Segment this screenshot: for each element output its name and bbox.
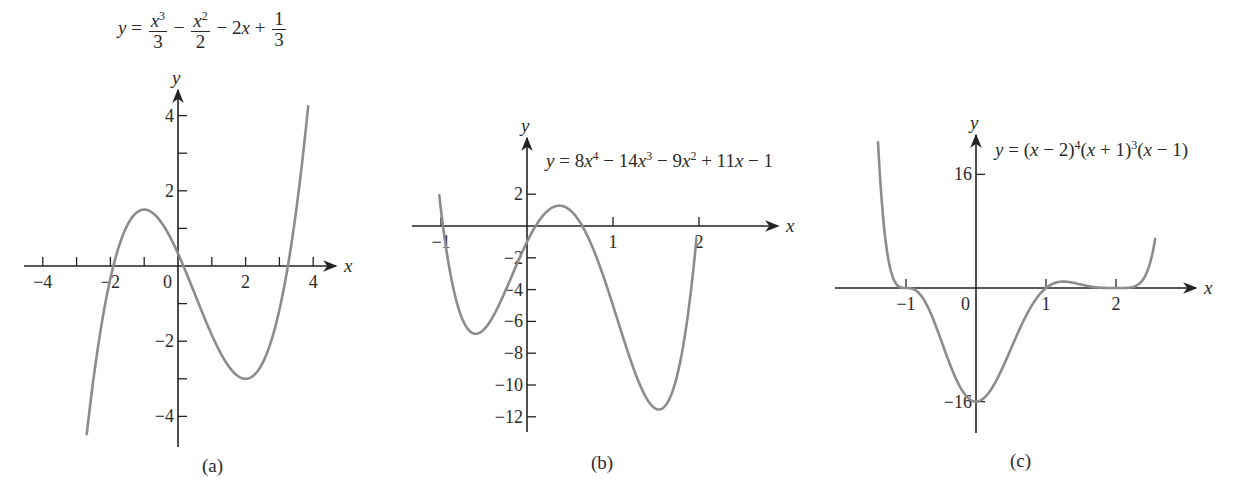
equation-c: y = (x − 2)4(x + 1)3(x − 1) — [995, 138, 1188, 161]
function-curve — [87, 106, 308, 434]
eq-a-equals: = — [131, 17, 142, 38]
eq-b-var: x — [638, 150, 646, 171]
eq-a-var: x — [241, 17, 249, 38]
function-curve — [878, 142, 1155, 401]
x-tick-label: 1 — [609, 232, 618, 252]
y-axis-label: y — [170, 67, 181, 88]
eq-c-var: x — [1087, 139, 1095, 160]
x-axis-label: x — [785, 215, 795, 236]
x-tick-label: 0 — [961, 294, 970, 314]
eq-a-frac3-num: 1 — [272, 9, 286, 30]
eq-a-lhs: y — [118, 17, 126, 38]
y-tick-label: −10 — [495, 375, 523, 395]
y-tick-label: 16 — [954, 164, 972, 184]
y-tick-label: −16 — [944, 392, 972, 412]
x-tick-label: 4 — [309, 272, 318, 292]
eq-c-var: x — [1144, 139, 1152, 160]
equation-a: y = x33 − x22 − 2x + 13 — [118, 6, 288, 52]
function-curve — [439, 195, 696, 409]
eq-c-part: = ( — [1003, 139, 1030, 160]
eq-c-part: − 1) — [1152, 139, 1188, 160]
y-tick-label: −8 — [504, 343, 523, 363]
eq-b-part: = 8 — [554, 150, 584, 171]
eq-c-part: − 2) — [1038, 139, 1074, 160]
eq-b-part: − 14 — [599, 150, 638, 171]
y-tick-label: 2 — [165, 181, 174, 201]
eq-b-part: + 11 — [696, 150, 735, 171]
panel-label-a: (a) — [202, 455, 223, 477]
x-tick-label: −1 — [896, 294, 915, 314]
x-tick-label: 2 — [1112, 294, 1121, 314]
x-tick-label: −1 — [431, 232, 450, 252]
eq-a-frac2-num: x — [193, 10, 201, 31]
eq-a-frac2-den: 2 — [191, 32, 209, 52]
equation-b: y = 8x4 − 14x3 − 9x2 + 11x − 1 — [546, 149, 773, 172]
eq-a-op3: + — [255, 17, 266, 38]
eq-c-part: + 1) — [1095, 139, 1131, 160]
eq-b-part: − 9 — [652, 150, 682, 171]
eq-b-part: − 1 — [743, 150, 773, 171]
y-tick-label: −12 — [495, 407, 523, 427]
figure-canvas: xy−4−202442−2−4 xy−1122−2−4−6−8−10−12 xy… — [0, 0, 1256, 500]
x-tick-label: −4 — [33, 272, 52, 292]
eq-a-frac1-num: x — [151, 10, 159, 31]
eq-a-frac1-den: 3 — [149, 32, 167, 52]
y-tick-label: −4 — [155, 406, 174, 426]
panel-label-c: (c) — [1010, 450, 1031, 472]
eq-a-frac2-sup: 2 — [202, 9, 208, 23]
eq-a-op2: − — [217, 17, 228, 38]
eq-a-op1: − — [174, 17, 185, 38]
x-tick-label: 1 — [1042, 294, 1051, 314]
y-axis-label: y — [968, 112, 979, 133]
y-tick-label: 2 — [514, 184, 523, 204]
eq-a-frac1-sup: 3 — [159, 9, 165, 23]
y-tick-label: 4 — [165, 106, 174, 126]
eq-a-frac3-den: 3 — [272, 30, 286, 50]
x-tick-label: 0 — [163, 272, 172, 292]
eq-a-frac1: x33 — [149, 6, 167, 52]
eq-a-frac2: x22 — [191, 6, 209, 52]
y-axis-label: y — [519, 115, 530, 136]
y-tick-label: −6 — [504, 311, 523, 331]
chart-panel-a: xy−4−202442−2−4 — [24, 67, 353, 447]
eq-a-frac3: 13 — [272, 9, 286, 50]
x-axis-label: x — [1203, 277, 1213, 298]
x-tick-label: 2 — [241, 272, 250, 292]
panel-label-b: (b) — [591, 452, 613, 474]
x-axis-label: x — [343, 255, 353, 276]
y-tick-label: −2 — [155, 331, 174, 351]
eq-b-var: x — [584, 150, 592, 171]
